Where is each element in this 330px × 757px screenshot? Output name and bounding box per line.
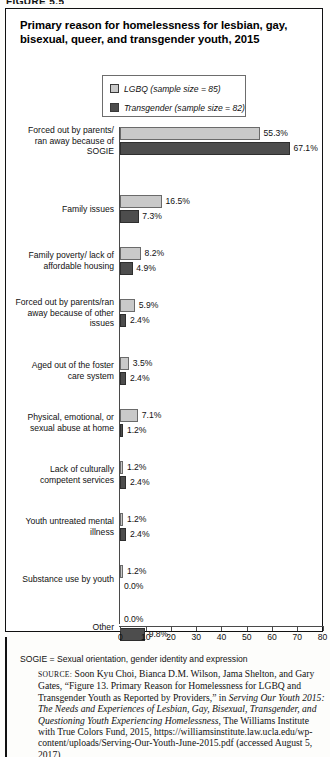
bar-value-label: 4.9% xyxy=(136,262,156,275)
source-label: SOURCE: xyxy=(38,670,72,679)
x-axis-tick xyxy=(196,626,197,631)
bar-transgender xyxy=(120,262,132,275)
bar-value-label: 2.4% xyxy=(130,476,150,489)
x-axis-tick xyxy=(221,626,222,631)
category-label: Family poverty/ lack ofaffordable housin… xyxy=(2,250,114,271)
category-label: Aged out of the fostercare system xyxy=(2,360,114,381)
bar-value-label: 1.2% xyxy=(127,565,147,578)
x-axis-tick xyxy=(247,626,248,631)
page-title: Primary reason for homelessness for lesb… xyxy=(20,19,312,46)
source-note: SOURCE: Soon Kyu Choi, Bianca D.M. Wilso… xyxy=(38,668,326,757)
x-axis-tick xyxy=(323,626,324,631)
x-axis-tick-label: 60 xyxy=(267,632,277,642)
legend-label-lgbq: LGBQ (sample size = 85) xyxy=(124,84,221,94)
bar-value-label: 67.1% xyxy=(293,142,317,155)
legend-item-transgender: Transgender (sample size = 82) xyxy=(110,98,245,117)
bar-transgender xyxy=(120,142,290,155)
bar-lgbq xyxy=(120,247,141,260)
category-label: Youth untreated mentalillness xyxy=(2,516,114,537)
category-label-line: competent services xyxy=(2,475,114,486)
category-label-line: sexual abuse at home xyxy=(2,423,114,434)
bar-value-label: 2.4% xyxy=(130,372,150,385)
category-label-line: illness xyxy=(2,527,114,538)
bar-transgender xyxy=(120,372,126,385)
category-label-line: SOGIE xyxy=(2,146,114,157)
bar-value-label: 55.3% xyxy=(264,127,288,140)
left-rule xyxy=(5,637,7,757)
chart-legend: LGBQ (sample size = 85) Transgender (sam… xyxy=(102,75,246,117)
x-axis-tick xyxy=(146,626,147,631)
bar-lgbq xyxy=(120,513,123,526)
x-axis-tick xyxy=(297,626,298,631)
x-axis-tick-label: 50 xyxy=(242,632,252,642)
category-label-line: Aged out of the foster xyxy=(2,360,114,371)
bar-lgbq xyxy=(120,409,138,422)
x-axis-tick-label: 10 xyxy=(141,632,151,642)
category-label-line: Lack of culturally xyxy=(2,464,114,475)
legend-label-transgender: Transgender (sample size = 82) xyxy=(124,103,245,113)
figure-number: FIGURE 5.5 xyxy=(6,0,64,4)
bar-transgender xyxy=(120,314,126,327)
bar-value-label: 3.5% xyxy=(133,357,153,370)
x-axis-tick-label: 40 xyxy=(217,632,227,642)
x-axis-tick-label: 0 xyxy=(118,632,123,642)
bar-value-label: 8.2% xyxy=(145,247,165,260)
legend-swatch-lgbq-icon xyxy=(110,84,119,93)
category-label: Family issues xyxy=(2,204,114,215)
x-axis-tick-label: 20 xyxy=(166,632,176,642)
category-label-line: Family poverty/ lack of xyxy=(2,250,114,261)
category-label: Physical, emotional, orsexual abuse at h… xyxy=(2,412,114,433)
category-label-line: Forced out by parents/ran xyxy=(2,297,114,308)
category-label-line: issues xyxy=(2,318,114,329)
bar-lgbq xyxy=(120,195,162,208)
chart-plot-area: Forced out by parents/ran away because o… xyxy=(6,127,324,624)
bar-value-label: 7.3% xyxy=(142,210,162,223)
legend-swatch-transgender-icon xyxy=(110,103,119,112)
category-label-line: ran away because of xyxy=(2,136,114,147)
footnote-sogie: SOGIE = Sexual orientation, gender ident… xyxy=(20,654,320,664)
bar-value-label: 16.5% xyxy=(166,195,190,208)
category-label: Substance use by youth xyxy=(2,574,114,585)
category-label: Forced out by parents/ranaway because of… xyxy=(2,297,114,329)
bar-lgbq xyxy=(120,565,123,578)
x-axis-tick-label: 80 xyxy=(318,632,328,642)
category-label-line: Physical, emotional, or xyxy=(2,412,114,423)
bar-lgbq xyxy=(120,461,123,474)
bar-value-label: 2.4% xyxy=(130,528,150,541)
category-label-line: Substance use by youth xyxy=(2,574,114,585)
category-label-line: Family issues xyxy=(2,204,114,215)
x-axis: 01020304050607080 xyxy=(6,626,324,646)
category-label-line: Youth untreated mental xyxy=(2,516,114,527)
bar-value-label: 0.0% xyxy=(124,580,144,593)
figure-box: Primary reason for homelessness for lesb… xyxy=(5,8,323,632)
bar-value-label: 1.2% xyxy=(127,424,147,437)
bar-value-label: 1.2% xyxy=(127,513,147,526)
category-label-line: affordable housing xyxy=(2,261,114,272)
bar-value-label: 5.9% xyxy=(139,299,159,312)
bar-transgender xyxy=(120,210,138,223)
bar-transgender xyxy=(120,424,123,437)
category-label-line: care system xyxy=(2,371,114,382)
bar-value-label: 2.4% xyxy=(130,314,150,327)
legend-item-lgbq: LGBQ (sample size = 85) xyxy=(110,79,245,98)
x-axis-tick xyxy=(272,626,273,631)
category-label: Forced out by parents/ran away because o… xyxy=(2,125,114,157)
bar-lgbq xyxy=(120,357,129,370)
bar-value-label: 7.1% xyxy=(142,409,162,422)
bar-value-label: 1.2% xyxy=(127,461,147,474)
bar-value-label: 0.0% xyxy=(124,613,144,626)
x-axis-tick xyxy=(171,626,172,631)
bar-lgbq xyxy=(120,299,135,312)
bar-transgender xyxy=(120,528,126,541)
category-label-line: Forced out by parents/ xyxy=(2,125,114,136)
category-label: Lack of culturallycompetent services xyxy=(2,464,114,485)
x-axis-tick-label: 70 xyxy=(292,632,302,642)
x-axis-tick xyxy=(120,626,121,631)
bar-transgender xyxy=(120,476,126,489)
bar-lgbq xyxy=(120,127,260,140)
x-axis-tick-label: 30 xyxy=(191,632,201,642)
category-label-line: away because of other xyxy=(2,308,114,319)
